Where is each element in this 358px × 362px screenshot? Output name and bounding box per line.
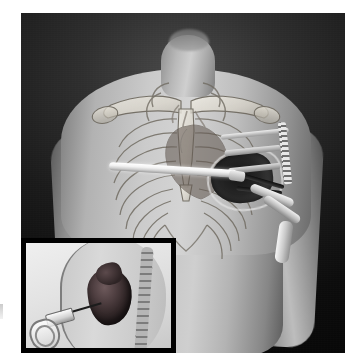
edge-artifact bbox=[0, 304, 3, 319]
drainage-tube-vertical bbox=[274, 220, 294, 264]
figure-root bbox=[0, 0, 358, 362]
sagittal-inset-panel bbox=[21, 238, 176, 353]
retractor-blade-upper bbox=[224, 145, 280, 157]
retractor-ratchet-rack bbox=[278, 122, 292, 184]
illustration-plate bbox=[21, 13, 345, 353]
cannula-rod-tip bbox=[228, 170, 245, 182]
inset-canvas bbox=[26, 243, 171, 348]
